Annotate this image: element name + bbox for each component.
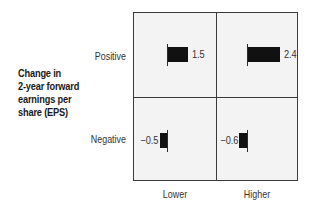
quadrant-grid: 1.5 2.4 −0.5 −0.6 — [133, 12, 298, 181]
column-label-lower: Lower — [150, 188, 201, 200]
bar-positive-lower — [168, 47, 188, 62]
y-axis-title-line: Change in — [18, 67, 88, 80]
bar-negative-higher — [239, 133, 247, 148]
value-label-positive-lower: 1.5 — [192, 48, 205, 60]
zero-baseline — [167, 130, 168, 152]
column-label-higher: Higher — [232, 188, 283, 200]
value-label-positive-higher: 2.4 — [284, 48, 297, 60]
row-label-negative: Negative — [75, 133, 126, 145]
bar-negative-lower — [160, 133, 167, 148]
value-label-negative-higher: −0.6 — [220, 134, 238, 146]
y-axis-title: Change in 2-year forward earnings per sh… — [18, 67, 88, 119]
value-label-negative-lower: −0.5 — [140, 134, 158, 146]
zero-baseline — [247, 130, 248, 152]
row-label-positive: Positive — [75, 50, 126, 62]
bar-positive-higher — [248, 47, 280, 62]
horizontal-divider — [134, 97, 297, 98]
y-axis-title-line: share (EPS) — [18, 106, 88, 119]
y-axis-title-line: earnings per — [18, 93, 88, 106]
y-axis-title-line: 2-year forward — [18, 80, 88, 93]
